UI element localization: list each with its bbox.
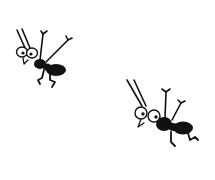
ants-drawing xyxy=(0,0,215,180)
illustration xyxy=(0,0,215,180)
ant-right xyxy=(127,80,198,146)
ant-left xyxy=(17,29,73,87)
